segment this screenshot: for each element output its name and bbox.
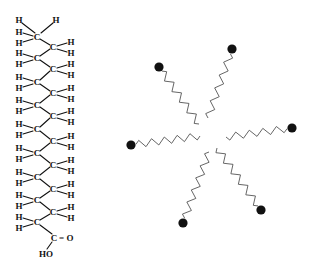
tail-right <box>226 123 297 140</box>
hydrophilic-head <box>126 140 135 149</box>
hydrophobic-tail <box>206 54 233 118</box>
hydrophilic-head <box>287 123 296 132</box>
hydrophobic-tail <box>216 148 258 206</box>
hydrophobic-tail <box>226 126 287 140</box>
hydrophobic-tail <box>136 134 200 147</box>
tail-upper-right <box>206 44 237 118</box>
diagram-canvas: CHHHHCHHCHHCHHCHHCHHCHHCHHCHHCHHCHHCHHCH… <box>0 0 309 275</box>
hydrophilic-head <box>256 205 265 214</box>
micelle-diagram <box>0 0 309 275</box>
hydrophilic-head <box>154 62 163 71</box>
hydrophilic-head <box>178 218 187 227</box>
hydrophilic-head <box>227 44 236 53</box>
tail-lower-left <box>178 152 209 228</box>
hydrophobic-tail <box>182 152 209 218</box>
tail-left <box>126 134 200 150</box>
hydrophobic-tail <box>162 71 199 124</box>
tail-upper-left <box>154 62 199 124</box>
micelle <box>126 44 296 227</box>
tail-lower-right <box>216 148 266 215</box>
